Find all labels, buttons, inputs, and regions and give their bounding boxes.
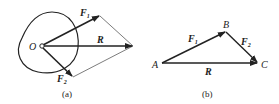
caption-a: (a) [62, 89, 72, 99]
label-f1-b: F1 [187, 33, 198, 45]
point-c-label: C [261, 59, 268, 70]
parallelogram-line-f2-r [73, 46, 133, 77]
origin-label: O [29, 41, 36, 52]
figure-b: A B C F1 F2 R (b) [151, 19, 268, 99]
label-f1-a: F1 [79, 7, 90, 19]
label-f2-b: F2 [240, 36, 251, 48]
label-r-b: R [204, 66, 212, 77]
origin-point [40, 44, 44, 48]
point-a-label: A [151, 59, 159, 70]
caption-b: (b) [202, 89, 213, 99]
label-r-a: R [96, 34, 104, 45]
force-diagram: O F1 R F2 (a) A B C F1 F2 R (b) [0, 0, 279, 104]
parallelogram-line-f1-r [100, 16, 133, 46]
label-f2-a: F2 [56, 73, 67, 85]
point-b-label: B [223, 19, 229, 30]
figure-a: O F1 R F2 (a) [19, 7, 133, 99]
